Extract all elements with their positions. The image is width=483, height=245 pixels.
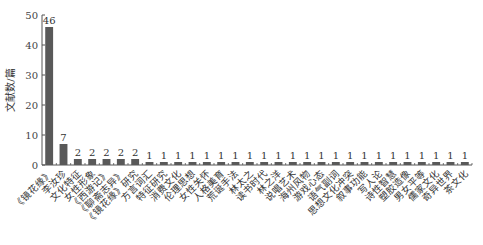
bar: [131, 159, 139, 165]
bar: [160, 162, 168, 165]
bar: [45, 27, 53, 165]
bar-value-label: 1: [404, 150, 410, 161]
bar: [275, 162, 283, 165]
bar-value-label: 1: [247, 150, 253, 161]
bar-value-label: 1: [261, 150, 267, 161]
bar: [404, 162, 412, 165]
bar: [217, 162, 225, 165]
bar: [361, 162, 369, 165]
bar: [103, 159, 111, 165]
bar: [432, 162, 440, 165]
bar: [375, 162, 383, 165]
bar-value-label: 1: [347, 150, 353, 161]
bar-chart: 01020304050 《镜花缘》李汝珍文化特征女性形象《西游记》《聊斋志异》《…: [0, 0, 483, 245]
bar-value-label: 1: [204, 150, 210, 161]
bar: [318, 162, 326, 165]
x-axis: 《镜花缘》李汝珍文化特征女性形象《西游记》《聊斋志异》《镜花缘》研究方言词汇特征…: [11, 163, 472, 225]
bar-value-label: 1: [361, 150, 367, 161]
bar: [332, 162, 340, 165]
bar-value-label: 2: [118, 147, 124, 158]
bar: [232, 162, 240, 165]
bar-value-label: 1: [175, 150, 181, 161]
bar-value-label: 1: [419, 150, 425, 161]
bar-value-label: 1: [146, 150, 152, 161]
bar: [289, 162, 297, 165]
bar-value-label: 2: [75, 147, 81, 158]
bar-value-label: 46: [43, 15, 56, 26]
bar-value-label: 1: [218, 150, 224, 161]
bar-value-label: 1: [390, 150, 396, 161]
bar-value-label: 1: [318, 150, 324, 161]
bar: [447, 162, 455, 165]
bar: [260, 162, 268, 165]
y-axis-title-text: 文献数/篇: [4, 68, 16, 111]
bar-value-label: 1: [275, 150, 281, 161]
bar: [146, 162, 154, 165]
bar: [418, 162, 426, 165]
y-tick-label: 30: [25, 70, 38, 81]
bar: [389, 162, 397, 165]
y-tick-label: 40: [25, 40, 38, 51]
bar: [461, 162, 469, 165]
bar-value-label: 1: [447, 150, 453, 161]
bar-value-label: 2: [89, 147, 95, 158]
y-tick-label: 10: [25, 130, 38, 141]
bar-value-label: 1: [232, 150, 238, 161]
bar-value-label: 1: [376, 150, 382, 161]
bar-value-label: 1: [462, 150, 468, 161]
bar-value-label: 1: [290, 150, 296, 161]
bar: [346, 162, 354, 165]
bar-value-label: 1: [189, 150, 195, 161]
bar-value-label: 1: [333, 150, 339, 161]
bar-value-label: 7: [60, 132, 66, 143]
bar: [246, 162, 254, 165]
bar: [88, 159, 96, 165]
bar: [60, 144, 68, 165]
bar: [189, 162, 197, 165]
bar: [174, 162, 182, 165]
bar-value-label: 1: [161, 150, 167, 161]
bar-value-label: 1: [304, 150, 310, 161]
bar-value-label: 2: [132, 147, 138, 158]
y-tick-label: 20: [25, 100, 38, 111]
y-tick-label: 0: [32, 160, 38, 171]
bars: 4672222211111111111111111111111: [43, 15, 469, 165]
bar-value-label: 1: [433, 150, 439, 161]
bar: [117, 159, 125, 165]
y-tick-label: 50: [25, 10, 38, 21]
bar-value-label: 2: [103, 147, 109, 158]
bar: [74, 159, 82, 165]
bar: [203, 162, 211, 165]
y-axis: 01020304050: [25, 10, 45, 171]
y-axis-title: 文献数/篇: [4, 68, 16, 111]
bar: [303, 162, 311, 165]
